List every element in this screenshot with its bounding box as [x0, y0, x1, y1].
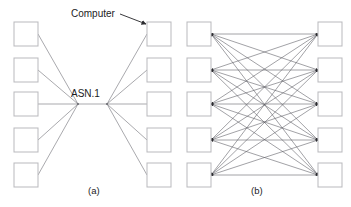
- computer-node[interactable]: [147, 163, 171, 187]
- computer-node[interactable]: [14, 22, 38, 46]
- computer-node[interactable]: [14, 128, 38, 152]
- computer-node[interactable]: [14, 92, 38, 116]
- computer-node[interactable]: [318, 22, 342, 46]
- computer-node[interactable]: [187, 92, 211, 116]
- panel-a-group: ASN.1 Computer (a): [14, 8, 171, 196]
- computer-node[interactable]: [187, 58, 211, 82]
- computer-node[interactable]: [147, 58, 171, 82]
- panel-a-caption: (a): [88, 185, 100, 196]
- computer-callout-arrow: [120, 14, 146, 24]
- computer-node[interactable]: [318, 128, 342, 152]
- computer-node[interactable]: [187, 22, 211, 46]
- panel-b-group: (b): [187, 22, 342, 196]
- computer-node[interactable]: [187, 163, 211, 187]
- panel-b-mesh-links: [211, 34, 318, 175]
- asn1-right-hub: [106, 103, 108, 105]
- panel-a-left-links: [38, 34, 78, 175]
- asn1-label: ASN.1: [71, 88, 100, 99]
- computer-node[interactable]: [318, 92, 342, 116]
- asn1-left-hub: [77, 103, 79, 105]
- link-left-4: [38, 104, 78, 140]
- panel-a-left-nodes: [14, 22, 38, 187]
- link-right-4: [107, 104, 147, 140]
- computer-node[interactable]: [14, 163, 38, 187]
- panel-a-right-links: [107, 34, 147, 175]
- computer-node[interactable]: [318, 163, 342, 187]
- computer-node[interactable]: [187, 128, 211, 152]
- figure-container: ASN.1 Computer (a): [0, 0, 351, 207]
- link-left-5: [38, 104, 78, 175]
- link-right-1: [107, 34, 147, 104]
- computer-node[interactable]: [147, 128, 171, 152]
- figure-canvas: ASN.1 Computer (a): [0, 0, 351, 207]
- link-right-5: [107, 104, 147, 175]
- computer-node[interactable]: [147, 92, 171, 116]
- panel-a-right-nodes: [147, 22, 171, 187]
- computer-node[interactable]: [147, 22, 171, 46]
- computer-callout-label: Computer: [71, 8, 116, 19]
- panel-b-caption: (b): [251, 185, 263, 196]
- computer-node[interactable]: [14, 58, 38, 82]
- computer-node[interactable]: [318, 58, 342, 82]
- link-right-2: [107, 70, 147, 104]
- panel-b-right-nodes: [318, 22, 342, 187]
- panel-b-left-nodes: [187, 22, 211, 187]
